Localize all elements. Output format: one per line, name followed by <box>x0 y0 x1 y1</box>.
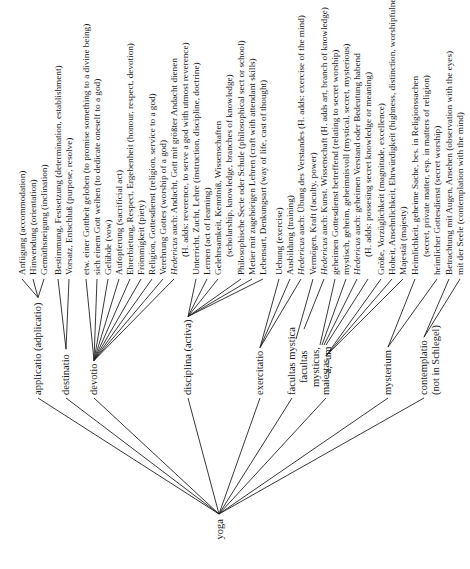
edge-root-to-mysterium <box>219 398 388 514</box>
leaf-entry-contemplatio: mit der Seele (contemplation with the mi… <box>455 112 465 275</box>
edge-facultas-leaf <box>304 279 324 329</box>
leaf-entry-maiestas: Größe, Vorzüglichkeit (magnitude, excell… <box>376 103 386 275</box>
edge-root-to-exercitatio <box>219 398 260 514</box>
branch-label-mysterium: mysterium <box>382 350 393 395</box>
leaf-entry-exercitatio: Ausbildung (training) <box>285 195 295 275</box>
tree-canvas: yoga applicatio (adplicatio) destinatio … <box>0 0 470 569</box>
edge-exercitatio-leaf <box>260 279 279 348</box>
leaf-entry-destinatio: Vorsatz, Entschluß (purpose, resolve) <box>64 138 74 275</box>
leaf-entry-mysterium: Heimlichkeit, geheime Sache, bes. in Rel… <box>410 76 420 275</box>
leaf-entry-mysterium: heimlicher Gottesdienst (secret worship) <box>432 126 442 275</box>
leaf-entries: Anfügung (accommodation)Hinwendung (orie… <box>17 0 465 276</box>
leaf-entry-disciplina: Lebensart, Denkungsart (way of life, cas… <box>258 80 268 275</box>
leaf-entry-facultas: geheimen Gottesdienst betreffend (relati… <box>330 50 340 275</box>
leaf-entry-facultas: Hedericus auch: Kunst. Wissenschaft (H. … <box>319 7 329 276</box>
leaf-entry-maiestas: Majestät (majesty) <box>398 206 408 275</box>
root-node-yoga: yoga <box>214 519 225 540</box>
leaf-entry-facultas: Hedericus auch: geheimen Verstand oder B… <box>352 53 362 276</box>
branch-label-maiestas: maiestas <box>320 359 331 395</box>
branch-label-destinatio: destinatio <box>60 354 71 395</box>
leaf-entry-devotio: Gelübde (vow) <box>103 220 113 275</box>
leaf-entry-contemplatio: Betrachtung mit Augen, Ansehen (observat… <box>444 51 454 275</box>
edge-mysterium-leaf <box>388 279 415 347</box>
leaf-entry-applicatio: Gemüthsneigung (inclination) <box>39 165 49 275</box>
leaf-entry-disciplina: Philosophische Secte oder Schule (philos… <box>236 41 246 276</box>
branch-label-contemplatio: contemplatio <box>418 340 429 395</box>
leaf-entry-mysterium: (secret, private matter, esp. in matters… <box>421 75 431 257</box>
author-name-hedericus: Hedericus <box>296 237 306 276</box>
edge-applicatio-leaf <box>38 279 44 298</box>
branch-label-applicatio: applicatio (adplicatio) <box>32 302 44 395</box>
leaf-entry-destinatio: Bestimmung, Festsetzung (determination, … <box>53 66 63 276</box>
edge-devotio-leaf <box>86 279 94 361</box>
leaf-entry-devotio: Hedericus auch: Andacht, Gott mit größte… <box>169 58 179 276</box>
branch-label-disciplina: disciplina (activa) <box>182 319 194 395</box>
leaf-entry-devotio: (H. adds: reverence, to serve a god with… <box>180 42 190 257</box>
leaf-entry-disciplina: Unterricht, Zucht, Lehre (instruction, d… <box>191 62 201 275</box>
edge-root-to-facultas <box>219 398 292 514</box>
edge-root-to-devotio <box>94 398 219 514</box>
etymology-tree-diagram: yoga applicatio (adplicatio) destinatio … <box>0 0 470 569</box>
leaf-entry-devotio: Ehrerbietung, Respect, Ergebenheit (hono… <box>125 43 135 275</box>
branch-label-devotio: devotio <box>88 364 99 396</box>
edge-destinatio-leaf <box>58 279 66 349</box>
edge-root-to-applicatio <box>38 398 219 514</box>
edge-devotio-leaf <box>94 279 152 361</box>
author-name-hedericus: Hedericus <box>169 237 179 276</box>
leaf-entry-maiestas: Hoheit, Ansehnlichkeit, Ehrwürdigkeit (h… <box>387 0 397 275</box>
edges <box>22 279 460 514</box>
edge-devotio-leaf <box>94 279 130 361</box>
edge-disciplina-leaf <box>188 279 263 316</box>
leaf-entry-devotio: etw. einer Gottheit geloben (to promise … <box>81 24 91 275</box>
edge-destinatio-leaf <box>66 279 69 349</box>
leaf-entry-devotio: Verehrung Gottes (worship of a god) <box>158 140 168 275</box>
leaf-entry-facultas: (H. adds: possesing secret knowledge or … <box>363 72 373 257</box>
leaf-entry-facultas: mystisch, geheim, geheimnisvoll (mystica… <box>341 44 351 275</box>
leaf-entry-applicatio: Hinwendung (orientation) <box>28 179 38 275</box>
leaf-entry-exercitatio: Hedericus auch: Übung des Verstandes (H.… <box>296 15 306 276</box>
edge-root-to-contemplatio <box>219 398 424 514</box>
edge-maiestas-leaf <box>326 279 392 356</box>
leaf-entry-devotio: sich einem Gott weihen (to dedicate ones… <box>92 79 102 275</box>
branch-label-exercitatio: exercitatio <box>254 351 265 395</box>
leaf-entry-disciplina: Lernen (act of learning) <box>202 188 212 276</box>
sublabel-facultas: facultas <box>298 350 309 383</box>
leaf-entry-disciplina: (scholarship, knowledge, branches of kno… <box>224 74 234 257</box>
edge-root-to-destinatio <box>66 398 219 514</box>
edge-disciplina-leaf <box>188 279 218 316</box>
leaf-entry-applicatio: Anfügung (accommodation) <box>17 171 27 275</box>
author-name-hedericus: Hedericus <box>319 237 329 276</box>
leaf-entry-devotio: Frömmigkeit (piety) <box>136 200 146 275</box>
branch-note-not-in-schlegel: (not in Schlegel) <box>430 325 442 395</box>
leaf-entry-facultas: Vermögen, Kraft (faculty, power) <box>308 152 318 275</box>
edge-facultas-leaf <box>322 279 346 345</box>
leaf-entry-devotio: Religion, Gottesdienst (religion, servic… <box>147 93 157 275</box>
leaf-entry-disciplina: Metier mit zugehörigen Lehren (craft wit… <box>247 58 257 275</box>
leaf-entry-exercitatio: Uebung (exercise) <box>274 207 284 275</box>
edge-root-to-maiestas <box>219 398 326 514</box>
branch-label-facultas-mystica: facultas mystica <box>286 327 297 395</box>
author-name-hedericus: Hedericus <box>352 237 362 276</box>
edge-disciplina-leaf <box>188 279 241 316</box>
edge-devotio-leaf <box>94 279 163 361</box>
edge-facultas-leaf <box>296 279 313 339</box>
edge-maiestas-leaf <box>326 279 381 356</box>
leaf-entry-devotio: Aufopferung (sacrificial act) <box>114 170 124 275</box>
leaf-entry-disciplina: Gelehrsamkeit, Kenntniß, Wissenschaften <box>213 121 223 275</box>
